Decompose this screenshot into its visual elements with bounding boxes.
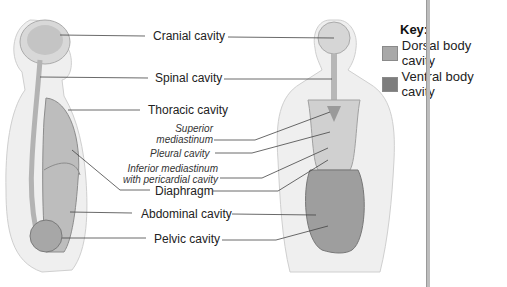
label-superior-line2: mediastinum (155, 134, 213, 145)
label-inferior-mediastinum: Inferior mediastinum with pericardial ca… (118, 163, 218, 185)
dorsal-swatch-icon (382, 46, 398, 61)
label-inferior-line1: Inferior mediastinum (118, 163, 218, 174)
label-pleural-cavity: Pleural cavity (150, 148, 209, 159)
legend-label-ventral: Ventral body cavity (402, 69, 507, 99)
label-superior-mediastinum: Superior mediastinum (155, 123, 213, 145)
label-spinal-cavity: Spinal cavity (155, 72, 222, 85)
label-thoracic-cavity: Thoracic cavity (148, 104, 228, 117)
legend-title: Key: (400, 22, 507, 37)
anterior-body-figure (277, 20, 394, 272)
legend: Key: Dorsal body cavity Ventral body cav… (382, 22, 507, 99)
page-divider (426, 0, 430, 287)
lateral-body-figure (6, 20, 87, 272)
label-cranial-cavity: Cranial cavity (153, 30, 225, 43)
ventral-swatch-icon (382, 77, 398, 92)
label-diaphragm: Diaphragm (155, 185, 214, 198)
label-pelvic-cavity: Pelvic cavity (154, 233, 220, 246)
label-abdominal-cavity: Abdominal cavity (141, 208, 232, 221)
legend-label-dorsal: Dorsal body cavity (402, 38, 507, 68)
label-superior-line1: Superior (155, 123, 213, 134)
legend-item-ventral: Ventral body cavity (382, 69, 507, 99)
legend-item-dorsal: Dorsal body cavity (382, 38, 507, 68)
